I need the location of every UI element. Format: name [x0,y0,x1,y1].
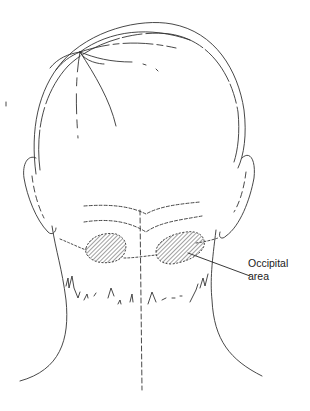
occipital-region-right [156,232,204,264]
contour-line [124,255,156,258]
right-ear [219,155,254,238]
neck-right-outline [211,230,262,376]
occipital-region-left [86,234,126,263]
skull-outline [34,23,245,174]
contour-line [60,239,86,250]
crown-line [80,52,132,62]
occipital-area-label-line2: area [248,270,288,283]
hair-mark [143,64,158,71]
skull-inner-contour [39,33,239,170]
contour-line [84,202,200,214]
left-ear-inner [32,176,44,218]
midline [140,210,142,390]
right-ear-inner [234,172,246,212]
occipital-area-label-line1: Occipital [248,257,288,270]
occipital-area-label: Occipital area [248,257,288,283]
occipital-leader-line [188,253,250,276]
nape-hairline [66,274,208,304]
head-diagram: Occipital area [0,0,310,411]
contour-line [84,216,202,232]
crown-line [76,52,80,138]
neck-left-outline [20,226,67,381]
crown-line [80,43,176,52]
crown-line [56,52,80,70]
